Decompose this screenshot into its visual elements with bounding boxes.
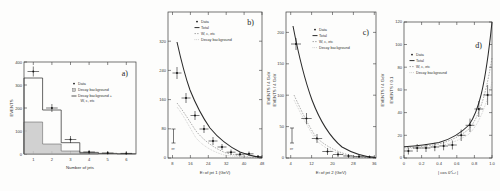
figure-container: 0 100 200 300 400 1 2 3 (0, 0, 500, 191)
panel-b-legend: Data Total W, c, etc Decay background (195, 20, 232, 42)
panel-d-legend-3: Decay background (416, 71, 447, 75)
panel-b: 0 80 160 240 320 8 16 24 (150, 0, 274, 191)
panel-d-xtick-2: 0.4 (436, 161, 442, 166)
panel-a: 0 100 200 300 400 1 2 3 (0, 0, 152, 191)
legend-marker-data-icon (196, 21, 198, 23)
panel-b-xtick-2: 24 (206, 161, 211, 166)
panel-d-letter: d) (475, 41, 482, 50)
panel-c-ytick-4: 200 (277, 30, 285, 35)
panel-d-xtick-0: 0 (403, 161, 406, 166)
panel-c-ytick-3: 150 (277, 61, 285, 66)
panel-c-legend-0: Data (319, 28, 328, 32)
legend-swatch-decay-background-icon (73, 89, 76, 92)
panel-c-xtick-0: 4 (290, 161, 293, 166)
panel-a-xtick-3: 4 (88, 157, 91, 162)
panel-c-legend: Data Total W, c, etc Decay background (313, 28, 350, 50)
panel-a-legend-2: Decay background + (78, 94, 112, 98)
panel-c-legend-2: W, c, etc (319, 40, 333, 44)
panel-d: 0 20 40 60 80 100 120 0 0.2 0.4 0.6 (386, 0, 500, 191)
panel-b-ytick-4: 320 (159, 39, 167, 44)
panel-d-ytick-5: 100 (395, 42, 403, 47)
panel-c-data-points (291, 38, 375, 158)
panel-c-ytick-0: 0 (282, 155, 285, 160)
panel-b-legend-3: Decay background (201, 38, 232, 42)
panel-d-legend-0: Data (416, 53, 425, 57)
panel-a-legend-0: Data (78, 82, 87, 86)
panel-d-xtick-5: 1.0 (489, 161, 495, 166)
panel-c-xtick-4: 36 (372, 161, 377, 166)
panel-d-xtick-3: 0.6 (454, 161, 460, 166)
panel-c-y-ticks (286, 32, 376, 158)
panel-c-decay-background-curve (294, 100, 376, 158)
panel-b-data-points (173, 67, 263, 158)
panel-c-inset-note: err (290, 147, 293, 151)
panel-a-letter: a) (122, 69, 129, 78)
panel-d-xtick-4: 0.8 (472, 161, 478, 166)
panel-d-ytick-3: 60 (397, 87, 402, 92)
panel-b-y-ticks (168, 41, 262, 158)
panel-a-legend: Data Decay background Decay background +… (72, 82, 112, 103)
panel-a-xlabel: Number of jets (66, 165, 94, 170)
panel-d-ytick-6: 120 (395, 19, 403, 24)
panel-b-ytick-2: 160 (159, 97, 167, 102)
panel-b-legend-0: Data (201, 20, 210, 24)
panel-d-legend-2: W, c, etc (416, 65, 430, 69)
panel-b-xtick-5: 48 (260, 161, 265, 166)
panel-d-legend-1: Total (416, 59, 424, 63)
panel-a-data-points (28, 67, 133, 155)
panel-a-xtick-0: 1 (32, 157, 35, 162)
panel-c-xlabel: Eₜ of jet 2 (GeV) (316, 170, 347, 175)
panel-c-legend-3: Decay background (319, 46, 350, 50)
panel-d-ytick-1: 20 (397, 133, 402, 138)
legend-marker-data-icon (314, 29, 316, 31)
panel-d-ytick-0: 0 (400, 155, 403, 160)
panel-b-xtick-4: 40 (242, 161, 247, 166)
panel-b-legend-1: Total (201, 26, 209, 30)
legend-marker-data-icon (411, 54, 413, 56)
panel-d-ylabel: EVENTS / 0.1 (389, 76, 394, 103)
panel-d-xtick-1: 0.2 (419, 161, 425, 166)
panel-b-ytick-3: 240 (159, 68, 167, 73)
panel-c-ytick-1: 50 (279, 124, 284, 129)
panel-c-ylabel-right: EVENTS / 4 GeV (380, 73, 385, 106)
panel-c-legend-1: Total (319, 34, 327, 38)
panel-b-ytick-0: 0 (164, 155, 167, 160)
panel-d-legend: Data Total W, c, etc Decay background (410, 53, 447, 75)
panel-c-signal-curve (294, 95, 376, 158)
panel-b-xtick-3: 32 (224, 161, 229, 166)
panel-a-ylabel: EVENTS (9, 99, 14, 116)
panel-b-xtick-0: 8 (171, 161, 174, 166)
panel-b-error-indicator: err (172, 129, 176, 151)
panel-a-xtick-1: 2 (51, 157, 54, 162)
panel-a-ytick-0: 0 (20, 152, 23, 157)
panel-a-legend-3: W, c, etc (81, 99, 95, 103)
panel-b-decay-background-curve (177, 107, 262, 158)
panel-b-xlabel: Eₜ of jet 1 (GeV) (200, 170, 231, 175)
panel-b-total-curve (177, 42, 262, 158)
panel-c-letter: c) (363, 28, 370, 37)
panel-d-xlabel: | cos θ*ⱼₑₜ | (438, 170, 458, 175)
panel-b-letter: b) (247, 18, 254, 27)
panel-a-ytick-3: 300 (15, 83, 23, 88)
panel-a-ytick-1: 100 (15, 129, 23, 134)
panel-c: 0 50 100 150 200 4 12 20 28 36 Eₜ (270, 0, 388, 191)
panel-c-ylabel-left: EVENTS / 4 GeV (272, 73, 277, 106)
panel-b-signal-curve (177, 103, 262, 158)
panel-b-ytick-1: 80 (161, 126, 166, 131)
panel-c-error-indicator: err (290, 128, 294, 151)
panel-b-xtick-1: 16 (188, 161, 193, 166)
panel-a-ytick-4: 400 (15, 60, 23, 65)
panel-d-ytick-4: 80 (397, 65, 402, 70)
panel-a-legend-1: Decay background (78, 88, 109, 92)
panel-c-xtick-3: 28 (351, 161, 356, 166)
panel-a-xtick-5: 6 (125, 157, 128, 162)
panel-b-legend-2: W, c, etc (201, 32, 215, 36)
panel-a-ytick-2: 200 (15, 106, 23, 111)
legend-marker-data-icon (73, 83, 75, 85)
panel-b-inset-note: err (172, 147, 175, 151)
panel-d-ytick-2: 40 (397, 110, 402, 115)
panel-a-xtick-4: 5 (107, 157, 110, 162)
panel-c-ytick-2: 100 (277, 93, 285, 98)
panel-c-xtick-2: 20 (330, 161, 335, 166)
panel-c-xtick-1: 12 (309, 161, 314, 166)
